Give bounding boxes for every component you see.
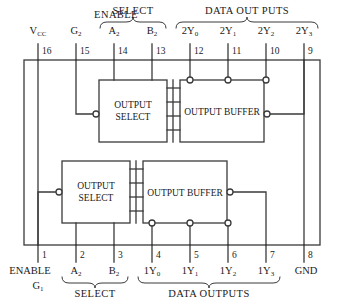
bubble-2y0 bbox=[187, 77, 193, 83]
pin-label-13: B2 bbox=[147, 25, 158, 38]
pin-label-16: VCC bbox=[30, 25, 47, 38]
bubble-2y2 bbox=[263, 77, 269, 83]
pin-label-2: A2 bbox=[70, 265, 82, 278]
pin-label-5: 1Y1 bbox=[182, 265, 199, 278]
pin-number-15: 15 bbox=[80, 46, 90, 56]
interconnect-bottom bbox=[130, 161, 143, 223]
block-label-output-select-bottom-line2: SELECT bbox=[79, 193, 114, 203]
top-pin-labels: VCC G2 A2 B2 2Y0 2Y1 2Y2 2Y3 bbox=[30, 25, 313, 38]
pin-label-9: 2Y3 bbox=[296, 25, 313, 38]
pinout-diagram: ENABLE SELECT DATA OUT PUTS SELECT DATA … bbox=[0, 0, 343, 301]
pin-number-12: 12 bbox=[194, 46, 204, 56]
pin-label-1-g1: G1 bbox=[32, 280, 44, 293]
pin-label-14: A2 bbox=[108, 25, 120, 38]
wire-g1 bbox=[38, 192, 56, 245]
block-output-select-top bbox=[99, 80, 167, 142]
pin-number-6: 6 bbox=[232, 250, 237, 260]
bubble-2y1 bbox=[225, 77, 231, 83]
block-label-output-select-top-line2: SELECT bbox=[116, 112, 151, 122]
pin-number-8: 8 bbox=[308, 250, 313, 260]
pin-number-3: 3 bbox=[118, 250, 123, 260]
pin-number-16: 16 bbox=[42, 46, 52, 56]
pin-number-9: 9 bbox=[308, 46, 313, 56]
pin-number-11: 11 bbox=[232, 46, 241, 56]
pin-number-4: 4 bbox=[156, 250, 161, 260]
bubble-1y2 bbox=[225, 220, 231, 226]
diagram-canvas: ENABLE SELECT DATA OUT PUTS SELECT DATA … bbox=[0, 0, 343, 301]
bubble-1y1 bbox=[187, 220, 193, 226]
block-label-output-buffer-top: OUTPUT BUFFER bbox=[184, 107, 260, 117]
brace-bottom-data bbox=[138, 277, 280, 288]
block-label-output-select-bottom-line1: OUTPUT bbox=[77, 181, 115, 191]
group-label-data-top: DATA OUT PUTS bbox=[205, 5, 289, 16]
top-pin-numbers: 16 15 14 13 12 11 10 9 bbox=[42, 46, 313, 56]
group-label-select-bottom: SELECT bbox=[75, 288, 116, 299]
group-label-data-bottom: DATA OUTPUTS bbox=[168, 288, 249, 299]
pin-number-10: 10 bbox=[270, 46, 280, 56]
pin-label-15: G2 bbox=[70, 25, 82, 38]
bubble-1y3 bbox=[227, 189, 233, 195]
pin-number-13: 13 bbox=[156, 46, 166, 56]
pin-label-7: 1Y3 bbox=[258, 265, 275, 278]
bottom-pin-leads bbox=[38, 245, 304, 262]
bottom-pin-labels: ENABLE G1 A2 B2 1Y0 1Y1 1Y2 1Y3 GND bbox=[9, 265, 318, 293]
bottom-pin-numbers: 1 2 3 4 5 6 7 8 bbox=[42, 250, 313, 260]
bubble-1y0 bbox=[149, 220, 155, 226]
top-pin-leads bbox=[38, 44, 304, 60]
pin-number-14: 14 bbox=[118, 46, 128, 56]
wire-2y3 bbox=[267, 60, 304, 114]
pin-label-1-enable: ENABLE bbox=[9, 265, 50, 276]
block-output-select-bottom bbox=[62, 161, 130, 223]
pin-number-5: 5 bbox=[194, 250, 199, 260]
bubble-2y3 bbox=[264, 111, 270, 117]
pin-label-10: 2Y2 bbox=[258, 25, 275, 38]
group-label-select-top: SELECT bbox=[113, 5, 154, 16]
pin-number-2: 2 bbox=[80, 250, 85, 260]
interconnect-top bbox=[167, 80, 180, 142]
pin-label-8: GND bbox=[295, 265, 318, 276]
wire-1y3 bbox=[231, 192, 266, 245]
pin-label-4: 1Y0 bbox=[144, 265, 161, 278]
brace-bottom-select bbox=[62, 277, 128, 288]
pin-label-11: 2Y1 bbox=[220, 25, 237, 38]
wire-g2 bbox=[76, 60, 93, 114]
bubble-g2 bbox=[93, 111, 99, 117]
bubble-g1 bbox=[56, 189, 62, 195]
pin-label-12: 2Y0 bbox=[182, 25, 199, 38]
pin-number-1: 1 bbox=[42, 250, 47, 260]
pin-number-7: 7 bbox=[270, 250, 275, 260]
block-label-output-buffer-bottom: OUTPUT BUFFER bbox=[147, 188, 223, 198]
pin-label-6: 1Y2 bbox=[220, 265, 237, 278]
block-label-output-select-top-line1: OUTPUT bbox=[114, 100, 152, 110]
pin-label-3: B2 bbox=[109, 265, 120, 278]
